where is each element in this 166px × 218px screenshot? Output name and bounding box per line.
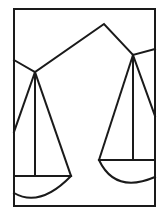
left-pan <box>14 72 71 198</box>
balance-scale-icon <box>0 0 166 218</box>
right-pan <box>99 55 155 183</box>
